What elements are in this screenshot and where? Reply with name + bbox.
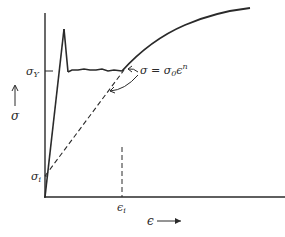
sigma-i-label: σi bbox=[31, 170, 42, 184]
upper-yield-drop bbox=[64, 29, 68, 72]
epsilon-axis-label: ϵ bbox=[147, 214, 154, 228]
epsilon-i-label: ϵi bbox=[117, 201, 126, 215]
luders-plateau bbox=[68, 69, 122, 72]
epsilon-axis-arrow-head bbox=[175, 218, 181, 224]
elastic-loading-line bbox=[45, 29, 64, 197]
sigma-axis-label: σ bbox=[11, 109, 20, 123]
power-law-equation: σ = σ0ϵn bbox=[140, 62, 188, 78]
stress-strain-diagram: σY σ σi ϵi ϵ σ = σ0ϵn bbox=[0, 0, 285, 237]
sigma-y-label: σY bbox=[26, 65, 40, 79]
